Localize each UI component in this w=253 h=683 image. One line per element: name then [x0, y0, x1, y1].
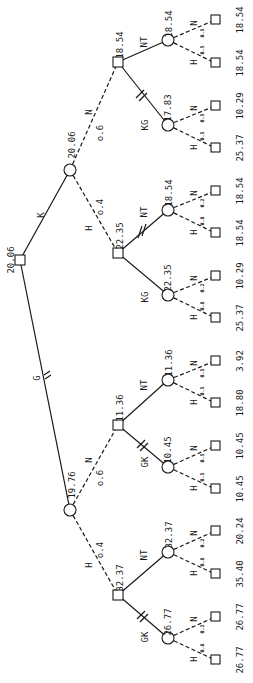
prob-label: o.6: [95, 470, 105, 486]
edge: [70, 425, 118, 510]
node-value: 18.54: [164, 10, 174, 37]
decision-tree: 20.06 K G 20.06 19.76 N o.6 H o.4 N o.6 …: [0, 0, 253, 683]
node-value: 32.37: [115, 564, 125, 591]
svg-text:10.29: 10.29: [235, 92, 245, 119]
svg-text:0.5: 0.5: [199, 45, 205, 54]
branch-label: GK: [140, 631, 150, 642]
leaf-nodes: [211, 15, 220, 664]
svg-text:0.5: 0.5: [199, 28, 205, 37]
svg-text:H: H: [189, 314, 199, 319]
svg-text:H: H: [189, 229, 199, 234]
svg-text:26.77: 26.77: [235, 603, 245, 630]
chance-nodes-level3: [162, 34, 174, 644]
node-value: 32.37: [164, 521, 174, 548]
svg-text:0.8: 0.8: [199, 557, 205, 566]
leaf-edges: [168, 20, 215, 660]
svg-text:10.29: 10.29: [235, 262, 245, 289]
branch-label: GK: [140, 456, 150, 467]
svg-text:18.54: 18.54: [235, 219, 245, 246]
svg-text:25.37: 25.37: [235, 134, 245, 161]
node-value: 22.35: [163, 264, 173, 291]
svg-text:H: H: [189, 59, 199, 64]
chance-node: [64, 164, 76, 176]
svg-text:0.5: 0.5: [199, 453, 205, 462]
prob-label: o.4: [95, 199, 105, 215]
svg-text:0.8: 0.8: [199, 301, 205, 310]
branch-label: H: [84, 225, 94, 230]
edge-root-g: [20, 260, 70, 510]
edge: [118, 595, 168, 638]
branch-label: NT: [139, 206, 149, 217]
node-value: 10.45: [163, 436, 173, 463]
svg-text:18.54: 18.54: [235, 6, 245, 33]
svg-text:18.80: 18.80: [235, 389, 245, 416]
svg-text:0.5: 0.5: [199, 472, 205, 481]
svg-text:H: H: [189, 399, 199, 404]
svg-text:N: N: [189, 105, 199, 110]
svg-text:3.92: 3.92: [235, 350, 245, 372]
node-value: 19.76: [67, 471, 77, 498]
node-value: 18.54: [115, 31, 125, 58]
svg-text:N: N: [189, 530, 199, 535]
svg-text:18.54: 18.54: [235, 177, 245, 204]
svg-text:0.5: 0.5: [199, 368, 205, 377]
svg-text:0.8: 0.8: [199, 216, 205, 225]
prob-label: o.6: [95, 125, 105, 141]
branch-label: N: [84, 109, 94, 114]
svg-text:10.45: 10.45: [235, 432, 245, 459]
root-value: 20.06: [6, 246, 16, 273]
edge: [118, 62, 168, 125]
svg-text:H: H: [189, 144, 199, 149]
svg-text:H: H: [189, 570, 199, 575]
node-value: 18.54: [164, 179, 174, 206]
svg-text:18.54: 18.54: [235, 49, 245, 76]
branch-label: NT: [139, 36, 149, 47]
svg-text:10.45: 10.45: [235, 475, 245, 502]
svg-text:H: H: [189, 485, 199, 490]
svg-text:0.2: 0.2: [199, 624, 205, 633]
edge: [70, 170, 118, 253]
node-value: 11.36: [115, 394, 125, 421]
prob-label: o.4: [95, 542, 105, 558]
svg-text:0.2: 0.2: [199, 283, 205, 292]
svg-text:26.77: 26.77: [235, 646, 245, 673]
node-value: 17.83: [163, 94, 173, 121]
svg-text:N: N: [189, 20, 199, 25]
node-value: 26.77: [163, 608, 173, 635]
node-value: 22.35: [115, 222, 125, 249]
pruned-mark: [45, 375, 51, 379]
node-value: 20.06: [67, 131, 77, 158]
svg-text:0.8: 0.8: [199, 643, 205, 652]
svg-text:20.24: 20.24: [235, 517, 245, 544]
chance-node: [64, 504, 76, 516]
svg-text:0.5: 0.5: [199, 386, 205, 395]
svg-text:0.5: 0.5: [199, 113, 205, 122]
branch-label: NT: [139, 549, 149, 560]
svg-text:0.2: 0.2: [199, 198, 205, 207]
edge: [118, 253, 168, 295]
svg-text:35.40: 35.40: [235, 560, 245, 587]
root-decision-node: [15, 255, 25, 265]
svg-text:25.37: 25.37: [235, 304, 245, 331]
svg-text:0.2: 0.2: [199, 538, 205, 547]
svg-text:N: N: [189, 275, 199, 280]
pruned-mark: [44, 371, 50, 375]
svg-text:N: N: [189, 445, 199, 450]
edge: [70, 510, 118, 595]
svg-text:N: N: [189, 616, 199, 621]
svg-text:H: H: [189, 656, 199, 661]
branch-label: NT: [139, 379, 149, 390]
branch-label: K: [36, 212, 46, 218]
svg-text:0.5: 0.5: [199, 131, 205, 140]
svg-text:N: N: [189, 360, 199, 365]
svg-text:N: N: [189, 190, 199, 195]
branch-label: KG: [140, 292, 150, 303]
branch-label: G: [32, 375, 42, 380]
branch-label: H: [84, 562, 94, 567]
pruned-mark: [138, 226, 142, 238]
edge: [70, 62, 118, 170]
branch-label: KG: [140, 120, 150, 131]
branch-label: N: [84, 457, 94, 462]
node-value: 11.36: [164, 349, 174, 376]
